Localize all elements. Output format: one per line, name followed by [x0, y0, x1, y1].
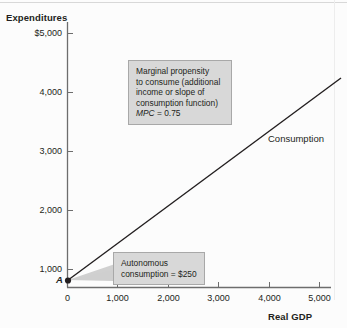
- y-tick-label-2000: 2,000: [12, 205, 62, 215]
- y-axis-title: Expenditures: [6, 12, 67, 23]
- x-tick-label-4000: 4,000: [249, 293, 290, 303]
- callout-autonomous-line-1: Autonomous: [121, 258, 198, 269]
- callout-autonomous-line-2: consumption = $250: [121, 269, 198, 280]
- x-axis-title: Real GDP: [268, 311, 312, 322]
- x-tick-label-0: 0: [55, 293, 80, 303]
- consumption-line-label: Consumption: [268, 133, 324, 144]
- callout-mpc: Marginal propensity to consume (addition…: [128, 60, 232, 125]
- y-tick-label-3000: 3,000: [12, 146, 62, 156]
- callout-mpc-line-4: consumption function): [136, 98, 225, 109]
- callout-mpc-line-2: to consume (additional: [136, 77, 225, 88]
- mpc-value: = 0.75: [155, 108, 181, 118]
- y-tick-label-1000: 1,000: [12, 264, 62, 274]
- x-tick-label-2000: 2,000: [148, 293, 189, 303]
- point-a-label: A: [56, 274, 63, 285]
- y-tick-label-4000: 4,000: [12, 87, 62, 97]
- callout-mpc-line-1: Marginal propensity: [136, 66, 225, 77]
- mpc-symbol: MPC: [136, 108, 155, 118]
- y-tick-label-5000: $5,000: [12, 28, 62, 38]
- point-a-marker: [65, 277, 71, 283]
- callout-mpc-line-3: income or slope of: [136, 87, 225, 98]
- consumption-function-chart: Expenditures Real GDP $5,000 4,000 3,000…: [0, 0, 347, 328]
- x-tick-label-3000: 3,000: [198, 293, 239, 303]
- callout-mpc-formula: MPC = 0.75: [136, 108, 225, 119]
- callout-autonomous-consumption: Autonomous consumption = $250: [113, 252, 205, 285]
- x-tick-label-5000: 5,000: [299, 293, 340, 303]
- y-axis-ticks: [68, 34, 74, 270]
- x-tick-label-1000: 1,000: [97, 293, 138, 303]
